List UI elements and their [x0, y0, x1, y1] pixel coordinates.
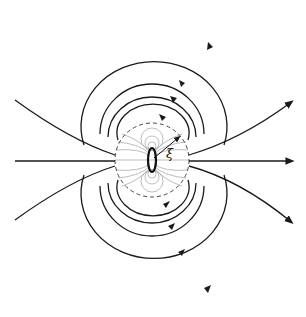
open-field-lines [15, 100, 290, 221]
near-field-lines [115, 128, 189, 192]
xi-label: ξ [166, 146, 173, 161]
field-lines-svg [0, 0, 306, 317]
dipole-field-diagram: ξ [0, 0, 306, 317]
